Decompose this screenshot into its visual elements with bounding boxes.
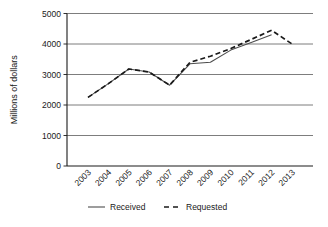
x-tick-label: 2011 [236, 167, 256, 187]
line-chart: 010002000300040005000Millions of dollars… [0, 0, 328, 227]
chart-container: 010002000300040005000Millions of dollars… [0, 0, 328, 227]
y-axis-title: Millions of dollars [9, 55, 19, 125]
legend-label-requested: Requested [186, 202, 227, 212]
series-group [88, 30, 292, 97]
x-tick-label: 2013 [276, 167, 297, 188]
x-tick-label: 2010 [215, 167, 236, 188]
x-tick-label: 2009 [195, 167, 216, 188]
y-tick-label: 1000 [42, 131, 61, 141]
legend-label-received: Received [110, 202, 146, 212]
x-tick-label: 2006 [134, 167, 155, 188]
gridlines-group: 010002000300040005000 [42, 9, 313, 172]
legend: ReceivedRequested [88, 202, 227, 212]
y-tick-label: 4000 [42, 39, 61, 49]
axes-group [67, 14, 313, 167]
y-tick-label: 2000 [42, 100, 61, 110]
y-tick-label: 3000 [42, 70, 61, 80]
y-tick-label: 5000 [42, 9, 61, 19]
x-tick-labels-group: 2003200420052006200720082009201020112012… [72, 167, 297, 188]
x-tick-label: 2008 [174, 167, 195, 188]
x-tick-label: 2005 [113, 167, 134, 188]
x-tick-label: 2007 [154, 167, 175, 188]
y-tick-label: 0 [56, 161, 61, 171]
x-tick-label: 2003 [72, 167, 93, 188]
x-tick-label: 2012 [256, 167, 277, 188]
x-tick-label: 2004 [93, 167, 114, 188]
